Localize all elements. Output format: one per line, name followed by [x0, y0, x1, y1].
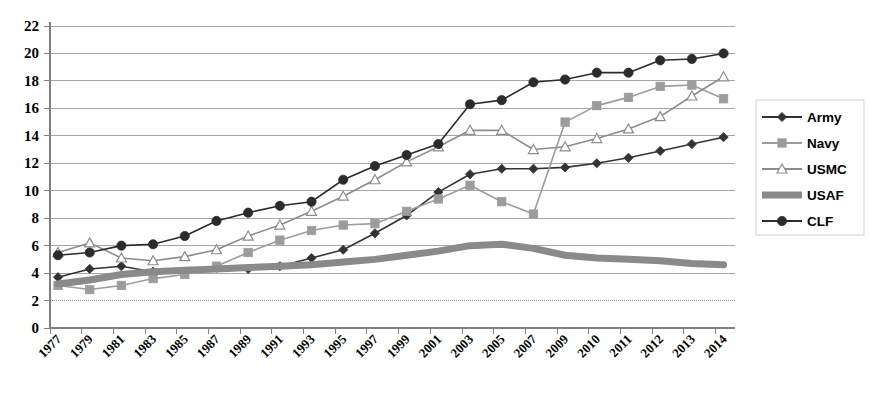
data-point-marker	[117, 262, 126, 271]
data-point-marker	[497, 96, 506, 105]
data-point-marker	[276, 236, 284, 244]
y-axis-tick-label: 14	[24, 128, 40, 144]
data-point-marker	[719, 133, 728, 142]
x-axis-tick-label: 2001	[415, 332, 444, 361]
data-point-marker	[402, 207, 410, 215]
data-point-marker	[85, 238, 95, 247]
y-axis-tick-label: 8	[32, 210, 40, 226]
y-axis-tick-label: 2	[32, 293, 40, 309]
data-point-marker	[560, 163, 569, 172]
x-axis-tick-label: 1985	[162, 331, 191, 360]
legend-label: Navy	[807, 136, 840, 151]
x-axis-tick-label: 1997	[352, 331, 381, 360]
y-axis-tick-label: 20	[24, 45, 39, 61]
y-axis-tick-label: 12	[24, 155, 39, 171]
data-point-marker	[434, 139, 443, 148]
data-point-marker	[53, 251, 62, 260]
data-point-marker	[592, 159, 601, 168]
x-axis-tick-label: 1979	[67, 331, 96, 360]
x-axis-labels: 1977197919811983198519871989199119931995…	[35, 331, 730, 360]
data-point-marker	[466, 181, 474, 189]
legend-label: Army	[807, 110, 842, 125]
x-axis-tick-label: 1999	[384, 331, 413, 360]
data-point-marker	[149, 274, 157, 282]
data-point-marker	[370, 161, 379, 170]
x-axis-tick-label: 1977	[35, 331, 64, 360]
line-chart: 0246810121416182022 19771979198119831985…	[0, 0, 870, 399]
y-axis-tick-label: 10	[24, 183, 39, 199]
chart-legend: ArmyNavyUSMCUSAFCLF	[756, 100, 864, 235]
data-point-marker	[402, 150, 411, 159]
data-point-marker	[339, 221, 347, 229]
data-point-marker	[85, 264, 94, 273]
data-point-marker	[85, 248, 94, 257]
chart-series-group	[53, 49, 729, 294]
data-point-marker	[117, 241, 126, 250]
y-axis-ticks	[44, 26, 50, 328]
data-point-marker	[529, 210, 537, 218]
legend-label: CLF	[807, 214, 833, 229]
data-point-marker	[370, 175, 380, 184]
data-point-marker	[370, 229, 379, 238]
y-axis-tick-label: 4	[32, 265, 40, 281]
data-point-marker	[465, 100, 474, 109]
data-point-marker	[307, 197, 316, 206]
data-point-marker	[593, 101, 601, 109]
x-axis-tick-label: 1995	[320, 331, 349, 360]
y-axis-tick-label: 22	[24, 18, 39, 34]
x-axis-tick-label: 1993	[289, 331, 318, 360]
data-point-marker	[656, 82, 664, 90]
data-point-marker	[244, 208, 253, 217]
y-axis-tick-label: 6	[32, 238, 40, 254]
data-point-marker	[719, 49, 728, 58]
data-point-marker	[656, 56, 665, 65]
data-point-marker	[497, 164, 506, 173]
data-point-marker	[688, 81, 696, 89]
data-point-marker	[687, 139, 696, 148]
legend-label: USAF	[807, 188, 844, 203]
y-axis-labels: 0246810121416182022	[24, 18, 40, 336]
data-point-marker	[592, 68, 601, 77]
x-axis-tick-label: 2003	[447, 331, 476, 360]
data-point-marker	[338, 191, 348, 200]
y-axis-tick-label: 18	[24, 73, 39, 89]
x-axis-tick-label: 2010	[574, 332, 603, 361]
data-point-marker	[560, 75, 569, 84]
x-axis-tick-label: 1989	[225, 331, 254, 360]
data-point-marker	[85, 285, 93, 293]
data-point-marker	[529, 78, 538, 87]
data-point-marker	[498, 198, 506, 206]
data-point-marker	[561, 118, 569, 126]
data-point-marker	[180, 231, 189, 240]
data-point-marker	[339, 245, 348, 254]
data-point-marker	[529, 164, 538, 173]
data-point-marker	[777, 216, 786, 225]
data-point-marker	[212, 216, 221, 225]
x-axis-tick-label: 2011	[606, 332, 634, 360]
data-point-marker	[719, 72, 729, 81]
x-axis-tick-label: 2012	[637, 332, 666, 361]
x-axis-tick-label: 2013	[669, 331, 698, 360]
data-point-marker	[339, 175, 348, 184]
data-point-marker	[624, 93, 632, 101]
data-point-marker	[623, 124, 633, 133]
x-axis-tick-label: 1991	[257, 332, 286, 361]
chart-container: 0246810121416182022 19771979198119831985…	[0, 0, 870, 399]
data-point-marker	[624, 153, 633, 162]
data-point-marker	[719, 95, 727, 103]
x-axis-tick-label: 2014	[701, 331, 730, 360]
x-axis-tick-label: 1981	[99, 332, 128, 361]
x-axis-tick-label: 2007	[511, 331, 540, 360]
data-point-marker	[371, 219, 379, 227]
x-axis-tick-label: 1983	[130, 331, 159, 360]
data-point-marker	[687, 54, 696, 63]
data-point-marker	[687, 91, 697, 100]
data-point-marker	[778, 139, 786, 147]
data-point-marker	[117, 281, 125, 289]
x-axis-tick-label: 2005	[479, 331, 508, 360]
data-point-marker	[434, 195, 442, 203]
data-point-marker	[624, 68, 633, 77]
data-point-marker	[656, 146, 665, 155]
data-point-marker	[275, 220, 285, 229]
data-point-marker	[116, 253, 126, 262]
